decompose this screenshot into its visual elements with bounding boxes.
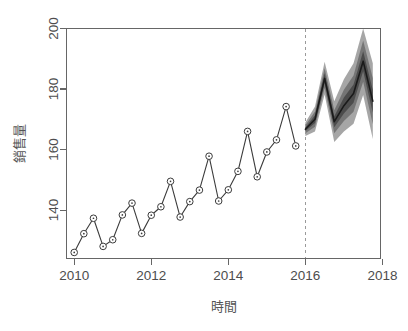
data-point-center — [247, 131, 249, 133]
x-tick-label-2012: 2012 — [136, 268, 166, 283]
data-point-center — [112, 239, 114, 241]
y-tick-label-180: 180 — [46, 78, 61, 101]
data-point-center — [83, 233, 85, 235]
data-point-center — [102, 246, 104, 248]
data-point-center — [160, 206, 162, 208]
chart-figure: 20102012201420162018 140160180200 時間 銷售量 — [0, 0, 408, 331]
data-point-center — [208, 155, 210, 157]
data-point-center — [141, 233, 143, 235]
data-point-center — [122, 214, 124, 216]
data-point-center — [237, 170, 239, 172]
data-point-center — [276, 139, 278, 141]
data-point-center — [199, 189, 201, 191]
x-axis-title: 時間 — [211, 299, 237, 314]
data-point-center — [256, 176, 258, 178]
data-point-center — [295, 145, 297, 147]
data-point-center — [93, 217, 95, 219]
data-point-center — [285, 106, 287, 108]
x-tick-label-2014: 2014 — [213, 268, 244, 283]
y-tick-label-160: 160 — [46, 138, 61, 161]
data-point-center — [189, 201, 191, 203]
forecast-line-chart: 20102012201420162018 140160180200 時間 銷售量 — [0, 0, 408, 331]
x-tick-label-2018: 2018 — [367, 268, 397, 283]
x-tick-label-2010: 2010 — [59, 268, 89, 283]
data-point-center — [170, 180, 172, 182]
data-point-center — [227, 189, 229, 191]
data-point-center — [150, 214, 152, 216]
y-tick-label-200: 200 — [46, 17, 61, 40]
y-axis-title: 銷售量 — [12, 124, 27, 163]
data-point-center — [179, 216, 181, 218]
data-point-center — [266, 151, 268, 153]
data-point-center — [131, 202, 133, 204]
x-tick-label-2016: 2016 — [290, 268, 320, 283]
data-point-center — [218, 200, 220, 202]
data-point-center — [73, 252, 75, 254]
y-tick-label-140: 140 — [46, 199, 61, 222]
